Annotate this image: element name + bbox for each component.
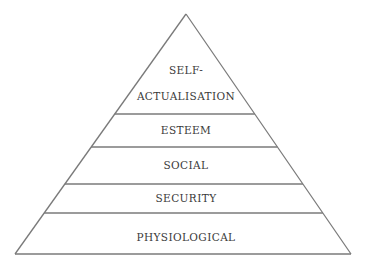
level-esteem: ESTEEM: [161, 124, 211, 136]
level-security: SECURITY: [156, 192, 218, 204]
level-self-actualisation-line1: SELF-: [169, 64, 203, 76]
pyramid-diagram: SELF- ACTUALISATION ESTEEM SOCIAL SECURI…: [0, 0, 365, 271]
level-social: SOCIAL: [164, 159, 209, 171]
level-self-actualisation-line2: ACTUALISATION: [136, 90, 235, 102]
level-physiological: PHYSIOLOGICAL: [136, 231, 235, 243]
